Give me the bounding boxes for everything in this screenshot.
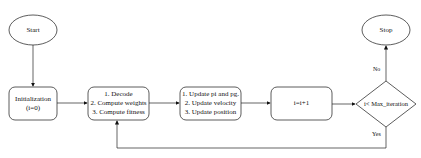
evaluate-line-3: 3. Compute fitness	[88, 108, 149, 117]
init-line-1: Initialization	[9, 95, 57, 104]
increment-label: i=i+1	[271, 99, 332, 108]
update-line-2: 2. Update velocity	[180, 99, 241, 108]
stop-label: Stop	[362, 26, 410, 35]
start-label: Start	[9, 26, 57, 35]
update-line-3: 3. Update position	[180, 108, 241, 117]
init-label: Initialization (i=0)	[9, 95, 57, 113]
update-label: 1. Update pi and pg. 2. Update velocity …	[180, 90, 241, 117]
edge-label-no: No	[373, 65, 380, 74]
evaluate-label: 1. Decode 2. Compute weights 3. Compute …	[88, 90, 149, 117]
edge-decision-evaluate-loop	[117, 121, 386, 148]
init-line-2: (i=0)	[9, 104, 57, 113]
edge-label-yes: Yes	[372, 130, 381, 139]
flowchart-canvas	[0, 0, 421, 158]
evaluate-line-1: 1. Decode	[88, 90, 149, 99]
update-line-1: 1. Update pi and pg.	[180, 90, 241, 99]
decision-label: i< Max_iteration	[356, 99, 416, 108]
evaluate-line-2: 2. Compute weights	[88, 99, 149, 108]
